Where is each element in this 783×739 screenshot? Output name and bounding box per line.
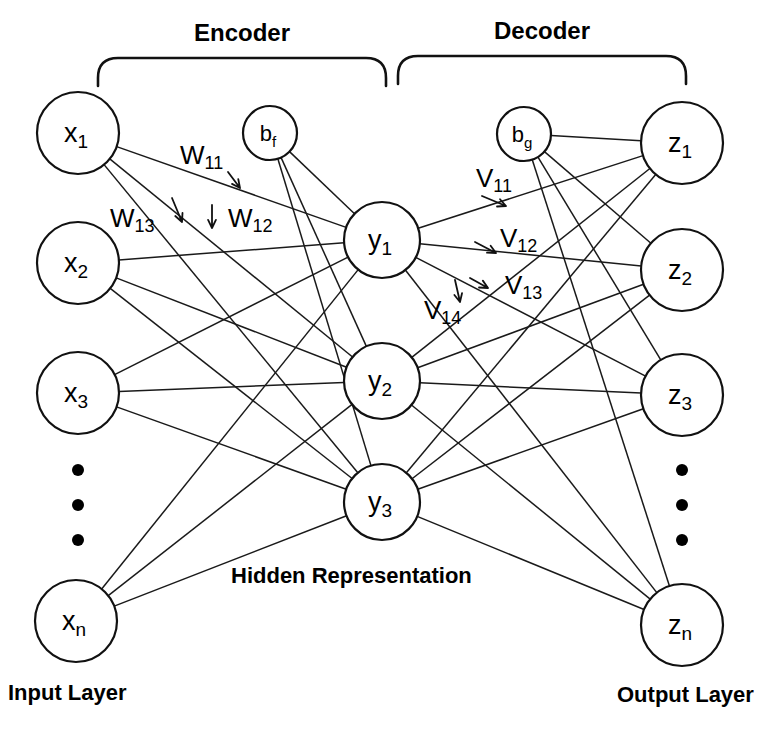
diagram-canvas: x1x2x3xn y1y2y3 z1z2z3zn bfbg W11W12W13V…	[0, 0, 783, 739]
weight-v14-text: V14	[424, 295, 461, 328]
output-node-zn: zn	[641, 584, 723, 666]
weight-w11: W11	[180, 140, 240, 188]
decoder-edge	[418, 156, 643, 229]
decoder-bias-edge	[544, 152, 650, 244]
weight-w11-pointer-icon	[228, 172, 240, 188]
input-layer-caption: Input Layer	[8, 680, 127, 705]
input-node-xn: xn	[35, 580, 117, 662]
weight-v13: V13	[470, 270, 542, 303]
hidden-node-y2: y2	[344, 343, 420, 419]
encoder-bias-edge	[278, 159, 371, 466]
weight-w11-text: W11	[180, 140, 223, 173]
weight-w13-pointer-icon	[172, 198, 183, 222]
weight-v11-text: V11	[476, 163, 512, 196]
hidden-layer-group: y1y2y3	[344, 202, 420, 540]
weight-v12-pointer-icon	[475, 242, 496, 253]
decoder-title: Decoder	[494, 17, 590, 44]
weight-w13: W13	[110, 198, 183, 236]
encoder-bias-edge	[290, 152, 355, 214]
encoder-edge	[117, 407, 347, 489]
input-ellipsis-dot	[72, 534, 84, 546]
output-layer-group: z1z2z3zn	[641, 102, 723, 666]
weight-w12: W12	[208, 203, 272, 236]
encoder-title: Encoder	[194, 19, 290, 46]
output-ellipsis-dot	[676, 499, 688, 511]
encoder-bracket	[98, 58, 386, 86]
output-node-z2: z2	[641, 229, 723, 311]
output-layer-caption: Output Layer	[617, 682, 754, 707]
weight-v12-text: V12	[500, 223, 537, 256]
weight-v11-pointer-icon	[482, 196, 506, 207]
input-ellipsis-dot	[72, 464, 84, 476]
bias-node-bf: bf	[243, 106, 297, 160]
output-ellipsis-dot	[676, 534, 688, 546]
section-bracket-group	[98, 56, 686, 86]
input-node-x1: x1	[37, 92, 119, 174]
input-layer-group: x1x2x3xn	[35, 92, 119, 662]
weight-w12-text: W12	[228, 203, 273, 236]
decoder-edge-group	[405, 156, 656, 610]
hidden-representation-caption: Hidden Representation	[231, 563, 472, 588]
bias-node-group: bfbg	[243, 106, 551, 161]
bias-node-bg: bg	[497, 107, 551, 161]
input-ellipsis-dot	[72, 499, 84, 511]
input-node-x3: x3	[37, 352, 119, 434]
hidden-node-y3: y3	[344, 464, 420, 540]
weight-w12-pointer-icon	[208, 205, 216, 228]
bias-edge-group	[278, 136, 670, 586]
hidden-node-y1: y1	[344, 202, 420, 278]
weight-v14-pointer-icon	[454, 280, 462, 302]
encoder-edge	[116, 278, 346, 367]
weight-v13-text: V13	[505, 270, 542, 303]
input-node-x2: x2	[37, 222, 119, 304]
decoder-bracket	[398, 56, 686, 84]
output-node-z1: z1	[641, 102, 723, 184]
weight-w13-text: W13	[110, 203, 155, 236]
autoencoder-diagram: x1x2x3xn y1y2y3 z1z2z3zn bfbg W11W12W13V…	[0, 0, 783, 739]
weight-v14: V14	[424, 280, 462, 328]
output-node-z3: z3	[641, 354, 723, 436]
output-ellipsis-dot	[676, 464, 688, 476]
decoder-bias-edge	[551, 136, 641, 141]
weight-v12: V12	[475, 223, 537, 256]
